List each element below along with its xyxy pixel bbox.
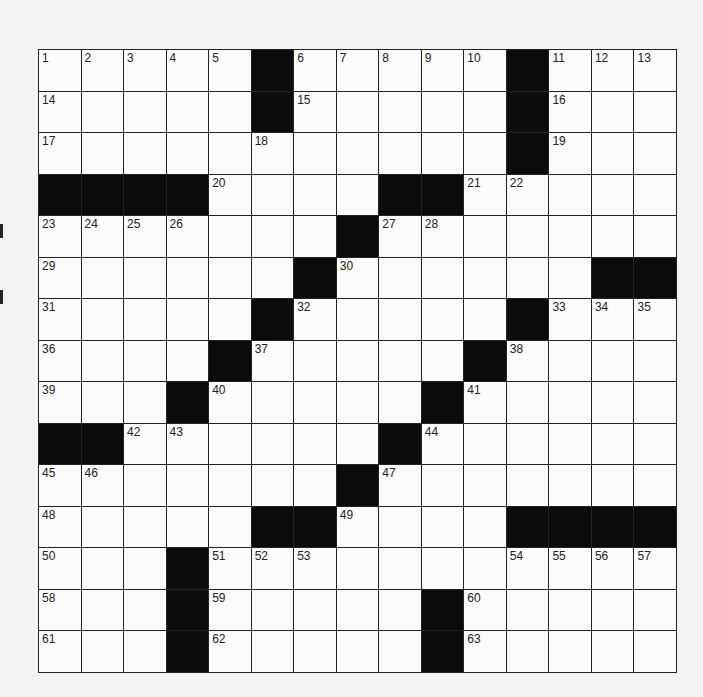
grid-cell[interactable] xyxy=(124,258,166,299)
grid-cell[interactable]: 13 xyxy=(634,50,676,91)
grid-cell[interactable] xyxy=(507,424,549,465)
grid-cell[interactable] xyxy=(549,382,591,423)
grid-cell[interactable] xyxy=(82,631,124,672)
grid-cell[interactable] xyxy=(422,133,464,174)
grid-cell[interactable] xyxy=(82,507,124,548)
grid-cell[interactable]: 31 xyxy=(39,299,81,340)
grid-cell[interactable] xyxy=(549,258,591,299)
grid-cell[interactable] xyxy=(82,299,124,340)
grid-cell[interactable]: 33 xyxy=(549,299,591,340)
grid-cell[interactable] xyxy=(464,548,506,589)
grid-cell[interactable] xyxy=(124,465,166,506)
grid-cell[interactable]: 42 xyxy=(124,424,166,465)
grid-cell[interactable] xyxy=(337,92,379,133)
grid-cell[interactable] xyxy=(209,92,251,133)
grid-cell[interactable] xyxy=(592,590,634,631)
grid-cell[interactable]: 11 xyxy=(549,50,591,91)
grid-cell[interactable] xyxy=(592,133,634,174)
grid-cell[interactable]: 8 xyxy=(379,50,421,91)
grid-cell[interactable] xyxy=(167,92,209,133)
grid-cell[interactable] xyxy=(422,548,464,589)
grid-cell[interactable]: 16 xyxy=(549,92,591,133)
grid-cell[interactable] xyxy=(167,465,209,506)
grid-cell[interactable]: 38 xyxy=(507,341,549,382)
grid-cell[interactable] xyxy=(337,341,379,382)
grid-cell[interactable]: 1 xyxy=(39,50,81,91)
grid-cell[interactable] xyxy=(549,175,591,216)
grid-cell[interactable]: 20 xyxy=(209,175,251,216)
grid-cell[interactable] xyxy=(82,341,124,382)
grid-cell[interactable] xyxy=(507,631,549,672)
grid-cell[interactable] xyxy=(592,382,634,423)
grid-cell[interactable] xyxy=(337,382,379,423)
grid-cell[interactable] xyxy=(634,341,676,382)
grid-cell[interactable]: 21 xyxy=(464,175,506,216)
grid-cell[interactable] xyxy=(294,631,336,672)
grid-cell[interactable] xyxy=(124,92,166,133)
grid-cell[interactable] xyxy=(634,424,676,465)
grid-cell[interactable] xyxy=(294,133,336,174)
grid-cell[interactable] xyxy=(294,424,336,465)
grid-cell[interactable] xyxy=(379,341,421,382)
grid-cell[interactable] xyxy=(124,299,166,340)
grid-cell[interactable]: 26 xyxy=(167,216,209,257)
grid-cell[interactable] xyxy=(337,299,379,340)
grid-cell[interactable] xyxy=(252,258,294,299)
grid-cell[interactable] xyxy=(549,424,591,465)
grid-cell[interactable]: 61 xyxy=(39,631,81,672)
grid-cell[interactable] xyxy=(379,548,421,589)
grid-cell[interactable] xyxy=(379,382,421,423)
grid-cell[interactable] xyxy=(464,133,506,174)
grid-cell[interactable] xyxy=(507,216,549,257)
grid-cell[interactable] xyxy=(337,548,379,589)
grid-cell[interactable]: 4 xyxy=(167,50,209,91)
grid-cell[interactable]: 51 xyxy=(209,548,251,589)
grid-cell[interactable] xyxy=(422,299,464,340)
grid-cell[interactable]: 49 xyxy=(337,507,379,548)
grid-cell[interactable] xyxy=(592,216,634,257)
grid-cell[interactable] xyxy=(379,92,421,133)
grid-cell[interactable] xyxy=(634,590,676,631)
grid-cell[interactable] xyxy=(379,507,421,548)
grid-cell[interactable] xyxy=(252,175,294,216)
grid-cell[interactable] xyxy=(464,507,506,548)
grid-cell[interactable] xyxy=(294,382,336,423)
grid-cell[interactable]: 48 xyxy=(39,507,81,548)
grid-cell[interactable] xyxy=(634,133,676,174)
grid-cell[interactable]: 28 xyxy=(422,216,464,257)
grid-cell[interactable] xyxy=(379,133,421,174)
grid-cell[interactable] xyxy=(464,258,506,299)
grid-cell[interactable] xyxy=(337,631,379,672)
grid-cell[interactable] xyxy=(82,133,124,174)
grid-cell[interactable] xyxy=(592,631,634,672)
grid-cell[interactable]: 34 xyxy=(592,299,634,340)
grid-cell[interactable] xyxy=(252,382,294,423)
grid-cell[interactable] xyxy=(507,382,549,423)
grid-cell[interactable]: 14 xyxy=(39,92,81,133)
grid-cell[interactable]: 27 xyxy=(379,216,421,257)
grid-cell[interactable] xyxy=(209,299,251,340)
grid-cell[interactable] xyxy=(82,548,124,589)
grid-cell[interactable] xyxy=(167,258,209,299)
grid-cell[interactable] xyxy=(634,175,676,216)
grid-cell[interactable] xyxy=(124,631,166,672)
grid-cell[interactable]: 57 xyxy=(634,548,676,589)
grid-cell[interactable] xyxy=(167,299,209,340)
grid-cell[interactable]: 19 xyxy=(549,133,591,174)
grid-cell[interactable] xyxy=(634,465,676,506)
grid-cell[interactable] xyxy=(209,507,251,548)
grid-cell[interactable] xyxy=(549,590,591,631)
grid-cell[interactable]: 2 xyxy=(82,50,124,91)
grid-cell[interactable]: 6 xyxy=(294,50,336,91)
grid-cell[interactable] xyxy=(422,507,464,548)
grid-cell[interactable] xyxy=(464,92,506,133)
grid-cell[interactable] xyxy=(507,258,549,299)
grid-cell[interactable] xyxy=(124,341,166,382)
grid-cell[interactable] xyxy=(549,216,591,257)
grid-cell[interactable] xyxy=(379,631,421,672)
grid-cell[interactable] xyxy=(294,175,336,216)
grid-cell[interactable] xyxy=(209,258,251,299)
grid-cell[interactable]: 18 xyxy=(252,133,294,174)
grid-cell[interactable]: 12 xyxy=(592,50,634,91)
grid-cell[interactable]: 17 xyxy=(39,133,81,174)
